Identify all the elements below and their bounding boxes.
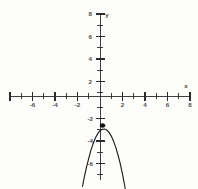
- x-tick-label: -6: [30, 101, 36, 108]
- y-tick-label: -2: [87, 115, 93, 122]
- x-axis-label: x: [184, 82, 188, 89]
- vertex-point-marker: [100, 124, 105, 128]
- y-axis-label: y: [105, 11, 109, 18]
- axes-group: [10, 14, 190, 180]
- y-tick-labels: 8 6 4 2 -2 -4 -6: [87, 10, 93, 167]
- x-tick-label: 8: [188, 101, 192, 108]
- x-tick-label: -4: [52, 101, 58, 108]
- y-tick-label: -4: [87, 137, 93, 144]
- coordinate-plane-plot: -6 -4 -2 2 4 6 8 8 6 4 2 -2 -4 -6 x y: [0, 0, 198, 189]
- y-tick-label: 2: [89, 78, 93, 85]
- x-tick-label: 6: [166, 101, 170, 108]
- graph-figure: -6 -4 -2 2 4 6 8 8 6 4 2 -2 -4 -6 x y: [0, 0, 198, 189]
- x-tick-label: 2: [121, 101, 125, 108]
- x-tick-label: -2: [75, 101, 81, 108]
- y-tick-label: 6: [89, 33, 93, 40]
- y-tick-label: 4: [89, 55, 93, 62]
- y-tick-label: 8: [89, 10, 93, 17]
- x-tick-labels: -6 -4 -2 2 4 6 8: [30, 101, 193, 108]
- x-tick-label: 4: [143, 101, 147, 108]
